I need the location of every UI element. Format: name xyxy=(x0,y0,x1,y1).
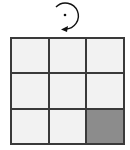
grid-cell xyxy=(50,110,86,143)
grid-cell xyxy=(12,74,48,107)
grid-cell xyxy=(50,39,86,72)
grid-3x3 xyxy=(10,37,125,145)
grid-cell xyxy=(12,39,48,72)
rotate-clockwise-icon xyxy=(45,0,85,34)
grid-cell xyxy=(50,74,86,107)
grid-cell xyxy=(87,39,123,72)
grid-cell xyxy=(12,110,48,143)
grid-cell-filled xyxy=(87,110,123,143)
grid-cell xyxy=(87,74,123,107)
